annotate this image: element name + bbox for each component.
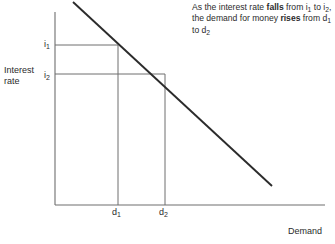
y-tick-label-i1: i1 bbox=[44, 39, 50, 50]
x-axis-label: Demand bbox=[288, 226, 322, 237]
annotation-emphasis-rises: rises bbox=[280, 13, 300, 23]
annotation-emphasis-falls: falls bbox=[267, 2, 284, 12]
y-axis-label-line1: Interest bbox=[4, 65, 34, 75]
annotation-line-1: As the interest rate falls from i1 to bbox=[192, 2, 321, 12]
money-demand-diagram: As the interest rate falls from i1 to i2… bbox=[0, 0, 335, 244]
x-tick-label-d2: d2 bbox=[159, 207, 168, 218]
y-axis-label: Interest rate bbox=[4, 65, 34, 87]
y-axis-label-line2: rate bbox=[4, 76, 20, 86]
y-tick-label-i2: i2 bbox=[44, 70, 50, 81]
x-tick-label-d1: d1 bbox=[112, 207, 121, 218]
annotation-text: As the interest rate falls from i1 to i2… bbox=[192, 2, 332, 36]
